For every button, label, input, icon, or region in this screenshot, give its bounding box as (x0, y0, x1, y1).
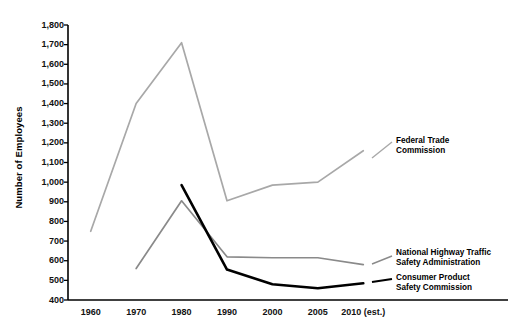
series-label-line1: Federal Trade (396, 136, 449, 146)
series-leader-line-0 (372, 142, 392, 158)
series-label-1: National Highway TrafficSafety Administr… (396, 248, 491, 267)
x-tick-label: 1960 (81, 307, 101, 317)
series-label-line2: Safety Commission (396, 283, 472, 293)
series-label-line1: Consumer Product (396, 273, 472, 283)
chart-canvas: Number of Employees 1,8001,7001,6001,500… (0, 0, 511, 336)
series-leader-line-2 (372, 279, 392, 282)
series-label-0: Federal TradeCommission (396, 136, 449, 155)
x-tick-label: 2005 (308, 307, 328, 317)
series-label-line2: Safety Administration (396, 258, 491, 268)
x-tick-label: 1970 (126, 307, 146, 317)
x-tick-label: 2000 (262, 307, 282, 317)
x-tick-label: 1990 (217, 307, 237, 317)
x-tick-label: 2010 (est.) (341, 307, 385, 317)
x-tick-label: 1980 (172, 307, 192, 317)
series-label-line2: Commission (396, 146, 449, 156)
series-line-1 (136, 201, 363, 269)
series-label-2: Consumer ProductSafety Commission (396, 273, 472, 292)
series-line-0 (91, 43, 364, 232)
series-line-2 (182, 185, 364, 288)
series-leader-line-1 (372, 256, 392, 264)
series-label-line1: National Highway Traffic (396, 248, 491, 258)
